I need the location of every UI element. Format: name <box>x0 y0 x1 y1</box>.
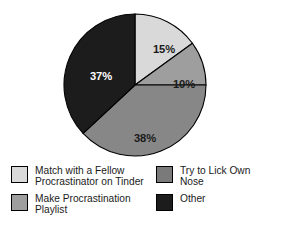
legend-item[interactable]: Try to Lick Own Nose <box>156 165 281 187</box>
legend-item[interactable]: Match with a Fellow Procrastinator on Ti… <box>11 165 151 187</box>
pie-slice-value-label: 37% <box>90 70 112 82</box>
chart-legend: Match with a Fellow Procrastinator on Ti… <box>0 165 283 225</box>
pie-slice-value-label: 38% <box>134 132 156 144</box>
legend-swatch-icon <box>11 194 28 211</box>
legend-swatch-icon <box>11 166 28 183</box>
legend-item-label: Make Procrastination Playlist <box>35 193 131 215</box>
legend-item[interactable]: Other <box>156 193 281 215</box>
pie-slice-value-label: 10% <box>173 78 195 90</box>
legend-column-right: Try to Lick Own Nose Other <box>156 165 281 221</box>
pie-chart-figure: 15%10%38%37% Match with a Fellow Procras… <box>0 0 283 246</box>
legend-swatch-icon <box>156 194 173 211</box>
pie-chart-plot-area: 15%10%38%37% <box>0 0 283 162</box>
legend-column-left: Match with a Fellow Procrastinator on Ti… <box>11 165 151 221</box>
legend-swatch-icon <box>156 166 173 183</box>
pie-chart-svg: 15%10%38%37% <box>63 13 207 157</box>
legend-item-label: Other <box>180 193 205 204</box>
legend-item-label: Try to Lick Own Nose <box>180 165 250 187</box>
legend-item[interactable]: Make Procrastination Playlist <box>11 193 151 215</box>
pie-slice-value-label: 15% <box>153 43 175 55</box>
legend-item-label: Match with a Fellow Procrastinator on Ti… <box>35 165 144 187</box>
